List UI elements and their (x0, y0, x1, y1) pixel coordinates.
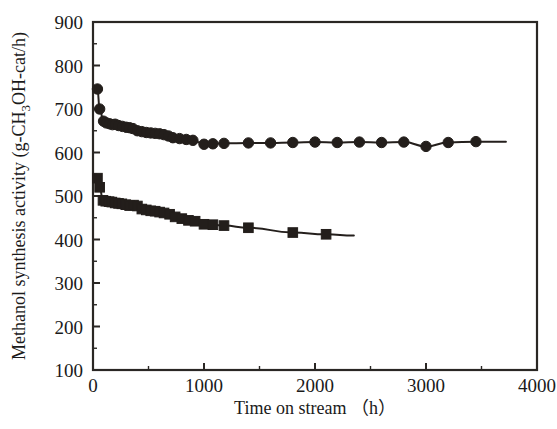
x-tick-label: 4000 (518, 375, 556, 396)
y-axis-title-text: Methanol synthesis activity (g-CH3OH-cat… (9, 32, 33, 360)
y-tick-label: 200 (55, 317, 84, 338)
data-point-square (208, 220, 218, 230)
data-point-circle (399, 137, 409, 147)
y-axis-title: Methanol synthesis activity (g-CH3OH-cat… (9, 32, 33, 360)
data-series-layer (92, 84, 506, 239)
data-point-circle (188, 135, 198, 145)
data-point-square (321, 229, 331, 239)
x-axis-title: Time on stream （h） (234, 398, 396, 418)
data-point-circle (443, 137, 453, 147)
y-tick-label: 800 (55, 56, 84, 77)
y-tick-label: 500 (55, 186, 84, 207)
series-lower-series (93, 173, 354, 239)
y-tick-label: 600 (55, 143, 84, 164)
data-point-circle (243, 138, 253, 148)
y-axis-tick-labels: 100200300400500600700800900 (55, 12, 84, 381)
methanol-activity-chart: 01000200030004000 1002003004005006007008… (0, 0, 557, 429)
data-point-circle (94, 104, 104, 114)
data-point-circle (471, 136, 481, 146)
data-point-square (190, 216, 200, 226)
x-axis-tick-labels: 01000200030004000 (88, 375, 556, 396)
chart-figure: 01000200030004000 1002003004005006007008… (0, 0, 557, 429)
data-point-circle (208, 139, 218, 149)
data-point-circle (92, 84, 102, 94)
x-axis-title-text: Time on stream （h） (234, 398, 396, 418)
data-point-circle (376, 137, 386, 147)
data-point-circle (265, 138, 275, 148)
y-tick-label: 400 (55, 230, 84, 251)
y-tick-label: 100 (55, 360, 84, 381)
x-tick-label: 2000 (296, 375, 334, 396)
x-tick-label: 3000 (407, 375, 445, 396)
series-upper-series (92, 84, 506, 152)
data-point-circle (310, 137, 320, 147)
data-point-square (244, 223, 254, 233)
y-tick-label: 900 (55, 12, 84, 33)
data-point-square (199, 219, 209, 229)
data-point-square (95, 183, 105, 193)
data-point-circle (219, 138, 229, 148)
y-tick-label: 300 (55, 273, 84, 294)
data-point-circle (354, 137, 364, 147)
data-point-square (219, 221, 229, 231)
data-point-circle (288, 137, 298, 147)
plot-frame (93, 22, 537, 370)
data-point-circle (332, 137, 342, 147)
y-tick-label: 700 (55, 99, 84, 120)
x-tick-label: 1000 (185, 375, 223, 396)
data-point-square (288, 228, 298, 238)
data-point-circle (421, 141, 431, 151)
x-tick-label: 0 (88, 375, 98, 396)
data-point-square (93, 173, 103, 183)
